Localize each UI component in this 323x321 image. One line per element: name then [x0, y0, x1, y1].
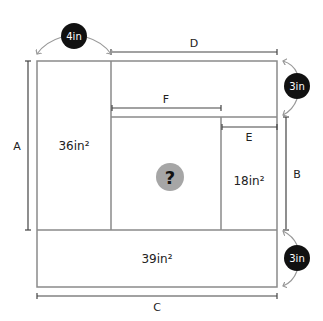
label-a: A	[13, 140, 21, 153]
dimension-e	[222, 124, 277, 130]
callout-top-left: 4in	[61, 23, 87, 49]
area-bottom: 39in²	[141, 252, 172, 266]
label-d: D	[190, 37, 198, 50]
label-c: C	[153, 301, 161, 314]
dimension-b	[283, 117, 289, 230]
dimension-a	[25, 61, 31, 230]
dimension-c	[37, 293, 277, 299]
question-mark: ?	[165, 167, 175, 188]
area-right-small: 18in²	[233, 174, 264, 188]
callout-top-right-text: 3in	[289, 81, 304, 92]
unknown-area-marker: ?	[156, 163, 184, 191]
area-left: 36in²	[58, 139, 89, 153]
area-diagram: A B C D E F 36in² 18in² 39in² ? 4in 3in …	[0, 0, 323, 321]
callout-bottom-right: 3in	[284, 245, 310, 271]
label-f: F	[163, 93, 169, 106]
label-b: B	[293, 168, 301, 181]
label-e: E	[246, 131, 253, 144]
callout-top-right: 3in	[284, 73, 310, 99]
callout-bottom-right-text: 3in	[289, 253, 304, 264]
callout-top-left-text: 4in	[66, 31, 81, 42]
